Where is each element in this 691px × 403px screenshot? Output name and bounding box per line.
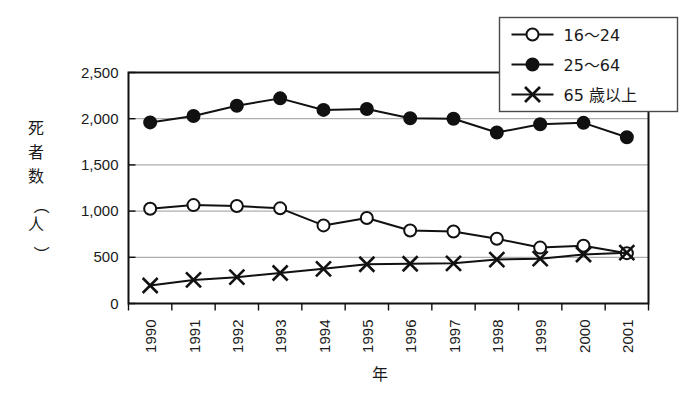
marker-filled-circle <box>621 131 633 143</box>
marker-open-circle <box>318 219 330 231</box>
y-tick-label: 0 <box>110 295 118 312</box>
y-axis-title-char: 死 <box>28 119 44 138</box>
marker-filled-circle <box>578 117 590 129</box>
x-tick-label: 1993 <box>272 320 289 353</box>
legend-item-label: 16〜24 <box>564 26 621 45</box>
line-chart: 2,5002,0001,5001,0005000 199019911992199… <box>0 0 691 403</box>
marker-filled-circle <box>318 104 330 116</box>
x-tick-label: 1991 <box>186 320 203 353</box>
marker-filled-circle <box>144 116 156 128</box>
x-tick-label: 1999 <box>532 320 549 353</box>
marker-filled-circle <box>491 127 503 139</box>
x-axis-title: 年 <box>372 365 388 384</box>
marker-open-circle <box>448 225 460 237</box>
marker-open-circle <box>534 242 546 254</box>
chart-legend: 16〜2425〜6465 歳以上 <box>500 18 678 112</box>
marker-filled-circle <box>361 103 373 115</box>
marker-filled-circle <box>534 118 546 130</box>
marker-filled-circle <box>527 59 539 71</box>
y-tick-label: 1,500 <box>81 156 119 173</box>
marker-filled-circle <box>188 110 200 122</box>
x-tick-label: 1996 <box>402 320 419 353</box>
legend-item-label: 65 歳以上 <box>564 86 637 105</box>
marker-filled-circle <box>448 113 460 125</box>
x-tick-label: 1995 <box>359 320 376 353</box>
marker-filled-circle <box>404 112 416 124</box>
x-tick-label: 2000 <box>576 320 593 353</box>
marker-filled-circle <box>274 92 286 104</box>
marker-open-circle <box>274 202 286 214</box>
x-tick-label: 1997 <box>446 320 463 353</box>
y-axis-title-char: ） <box>32 246 51 262</box>
y-tick-label: 1,000 <box>81 202 119 219</box>
marker-open-circle <box>231 200 243 212</box>
chart-figure: 2,5002,0001,5001,0005000 199019911992199… <box>0 0 691 403</box>
y-tick-label: 2,500 <box>81 64 119 81</box>
y-axis-title-char: （ <box>32 198 51 214</box>
x-tick-label: 1990 <box>142 320 159 353</box>
x-tick-label: 1992 <box>229 320 246 353</box>
marker-open-circle <box>404 225 416 237</box>
marker-open-circle <box>361 212 373 224</box>
y-tick-label: 500 <box>93 248 118 265</box>
legend-item-label: 25〜64 <box>564 56 621 75</box>
x-tick-label: 1994 <box>316 320 333 353</box>
x-tick-label: 2001 <box>619 320 636 353</box>
marker-filled-circle <box>231 100 243 112</box>
marker-open-circle <box>144 203 156 215</box>
y-axis-title-char: 人 <box>28 215 44 234</box>
marker-open-circle <box>188 199 200 211</box>
marker-open-circle <box>527 29 539 41</box>
marker-open-circle <box>491 233 503 245</box>
x-tick-label: 1998 <box>489 320 506 353</box>
y-tick-label: 2,000 <box>81 110 119 127</box>
y-axis-title-char: 数 <box>28 167 44 186</box>
y-axis-title-char: 者 <box>28 143 44 162</box>
